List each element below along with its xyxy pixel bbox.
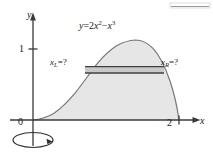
- y-axis-label: y: [27, 10, 31, 20]
- y-axis: [30, 13, 36, 147]
- x-right-annotation: xR=?: [161, 58, 178, 67]
- y-tick-label-1: 1: [19, 44, 24, 54]
- equation-exponent-2: 3: [112, 19, 115, 26]
- x-left-annotation: xL=?: [50, 58, 67, 67]
- top-right-rule-artifact: [170, 3, 210, 8]
- x-right-value: ?: [174, 57, 178, 67]
- x-right-subscript: R: [165, 61, 169, 68]
- x-axis-label: x: [200, 116, 204, 126]
- equation-label: y=2x2−x3: [79, 21, 115, 31]
- horizontal-strip-slice: [85, 67, 164, 74]
- x-left-value: ?: [63, 57, 67, 67]
- origin-label: 0: [18, 117, 23, 127]
- x-left-subscript: L: [54, 61, 58, 68]
- figure-container: y=2x2−x3 y x 1 0 2 xL=? xR=?: [0, 0, 213, 155]
- x-tick-label-2: 2: [167, 118, 172, 128]
- equation-exponent-1: 2: [99, 19, 102, 26]
- equation-var-1: x: [94, 20, 98, 31]
- shaded-region-under-curve: [33, 40, 179, 120]
